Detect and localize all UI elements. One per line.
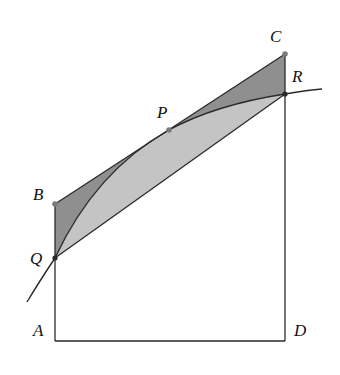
point-Q [52,255,57,260]
chord-QR [55,94,285,258]
geometry-figure [0,0,340,375]
label-P: P [157,104,167,121]
label-C: C [270,28,281,45]
label-Q: Q [30,250,42,267]
point-B [52,201,58,207]
label-R: R [292,68,302,85]
label-D: D [294,322,306,339]
label-A: A [33,322,43,339]
point-R [282,91,287,96]
point-C [282,51,288,57]
label-B: B [33,186,43,203]
point-P [166,127,172,133]
